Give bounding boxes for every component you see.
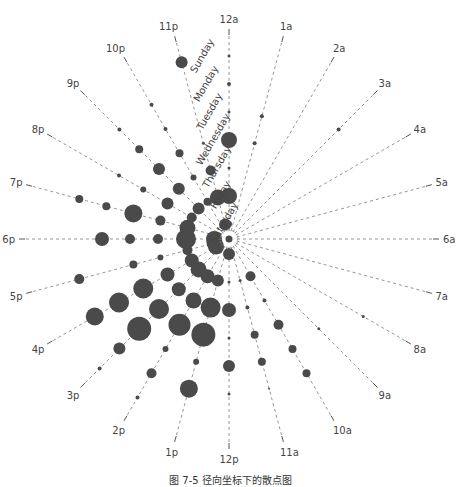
axis-tick (373, 91, 377, 95)
axis-tick (406, 134, 411, 137)
axis-tick (331, 57, 334, 62)
bubble-tuesday-12p (223, 360, 235, 372)
hour-label: 7a (436, 291, 449, 302)
hour-label: 3p (67, 390, 80, 401)
axis-tick (26, 185, 32, 187)
hour-axis-10a (233, 246, 332, 417)
hour-label: 11a (280, 447, 299, 458)
axis-tick (47, 341, 52, 344)
bubble-sunday-3p (98, 366, 102, 370)
axis-tick (124, 57, 127, 62)
bubble-tuesday-9p (135, 145, 143, 153)
bubble-tuesday-10p (164, 127, 168, 131)
bubble-monday-5p (74, 274, 84, 284)
bubble-monday-7p (75, 195, 83, 203)
bubble-friday-10a (246, 271, 256, 281)
axis-tick (81, 91, 85, 95)
bubble-thursday-1p (201, 298, 221, 318)
axis-tick (406, 341, 411, 344)
bubble-friday-4p (185, 254, 199, 268)
bubble-thursday-6p (153, 234, 163, 244)
bubble-thursday-8p (162, 198, 174, 210)
hour-label: 8p (32, 124, 45, 135)
bubble-wednesday-6p (125, 234, 135, 244)
bubble-sunday-12a (228, 55, 231, 58)
hour-axis-5a (237, 186, 427, 237)
bubble-monday-8a (362, 315, 365, 318)
hour-label: 2p (112, 425, 125, 436)
bubble-thursday-5p (157, 254, 163, 260)
bubble-wednesday-2p (169, 314, 191, 336)
bubble-monday-2p (147, 368, 157, 378)
axis-tick (47, 134, 52, 137)
hour-axis-1a (231, 41, 282, 231)
bubble-friday-9p (193, 203, 205, 215)
bubble-wednesday-3p (149, 299, 169, 319)
axis-tick (426, 292, 432, 294)
bubble-monday-10p (150, 103, 154, 107)
hour-label: 6p (2, 234, 15, 245)
bubble-tuesday-10a (289, 345, 297, 353)
hour-label: 1a (280, 21, 293, 32)
hour-axis-11a (231, 247, 282, 437)
bubble-tuesday-1p (193, 359, 199, 365)
bubble-tuesday-2p (163, 346, 169, 352)
bubble-wednesday-8p (140, 187, 146, 193)
hour-label: 8a (414, 344, 427, 355)
bubble-monday-1p (180, 380, 198, 398)
hour-label: 12a (220, 14, 239, 25)
hour-label: 5a (436, 177, 449, 188)
bubble-tuesday-6p (95, 232, 109, 246)
bubble-monday-12a (227, 82, 231, 86)
axis-tick (81, 383, 85, 387)
hour-axis-7a (237, 241, 427, 292)
radial-scatter-chart: 12a1a2a3a4a5a6a7a8a9a10a11a12p1p2p3p4p5p… (0, 0, 461, 470)
bubble-wednesday-10a (274, 320, 284, 330)
bubble-thursday-9p (173, 183, 185, 195)
bubble-saturday-12p (223, 248, 235, 260)
center-dot (226, 236, 233, 243)
hour-label: 12p (219, 454, 238, 465)
bubble-tuesday-7p (102, 202, 110, 210)
hour-label: 6a (443, 234, 456, 245)
bubble-friday-12p (228, 281, 231, 284)
hour-label: 10p (106, 43, 125, 54)
hour-label: 3a (379, 78, 392, 89)
axis-tick (331, 416, 334, 421)
axis-tick (26, 292, 32, 294)
hour-axis-8a (236, 243, 407, 342)
hour-label: 4a (414, 124, 427, 135)
bubble-wednesday-7p (124, 204, 142, 222)
bubble-thursday-11a (245, 306, 249, 310)
bubble-wednesday-9p (153, 163, 165, 175)
bubble-thursday-4p (161, 268, 175, 282)
bubble-thursday-12p (222, 303, 236, 317)
bubble-tuesday-11a (258, 358, 266, 366)
bubble-sunday-2p (136, 395, 140, 399)
hour-axis-3a (235, 94, 374, 233)
hour-label: 2a (333, 43, 346, 54)
axis-tick (175, 436, 177, 442)
bubble-tuesday-8p (117, 174, 121, 178)
bubble-wednesday-10p (176, 149, 184, 157)
bubble-monday-3p (113, 343, 125, 355)
bubble-monday-12p (228, 393, 231, 396)
axis-tick (426, 185, 432, 187)
hour-label: 7p (10, 177, 23, 188)
bubble-monday-10a (303, 369, 311, 377)
hour-label: 1p (165, 447, 178, 458)
bubble-monday-4p (86, 308, 104, 326)
hour-axis-2a (233, 61, 332, 232)
hour-label: 11p (159, 21, 178, 32)
bubble-monday-9p (117, 127, 121, 131)
hour-label: 4p (32, 344, 45, 355)
bubble-wednesday-12p (228, 337, 231, 340)
hour-label: 9p (67, 78, 80, 89)
figure-caption: 图 7-5 径向坐标下的散点图 (0, 472, 461, 487)
bubble-tuesday-1a (260, 114, 264, 118)
bubble-wednesday-4p (133, 279, 153, 299)
hour-axis-4a (236, 137, 407, 236)
bubble-thursday-12a (228, 167, 231, 170)
bubble-thursday-7p (155, 216, 165, 226)
bubble-monday-11a (268, 388, 270, 390)
